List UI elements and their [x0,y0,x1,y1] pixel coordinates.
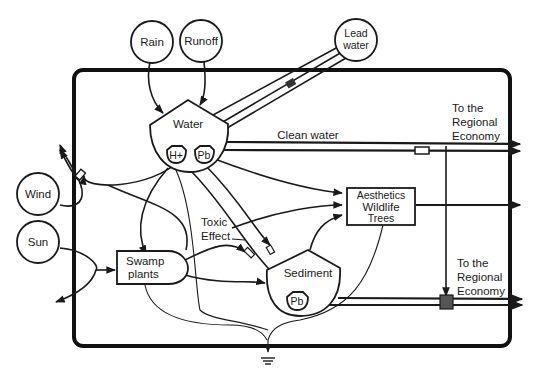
water-to-plants [141,168,168,254]
source-wind: Wind [17,173,59,215]
runoff-label: Runoff [184,35,218,47]
sediment-to-amenities [310,215,342,250]
rain-label: Rain [140,36,164,48]
regional-economy-top-1: To the [452,102,483,114]
lead-water-label-2: water [342,39,369,51]
regional-economy-bottom-3: Economy [457,285,505,297]
regional-economy-top-3: Economy [452,130,500,142]
wind-label: Wind [25,188,51,200]
toxic-effect-label-2: Effect [201,230,231,242]
source-runoff: Runoff [180,20,222,62]
toxic-effect-pointer [232,239,245,240]
amenities-box: Aesthetics Wildlife Trees [347,188,415,225]
sediment-label: Sediment [284,267,333,279]
plants-to-sink [145,285,267,340]
water-label: Water [173,118,203,130]
source-lead-water: Lead water [335,19,377,61]
regional-economy-bottom-1: To the [457,257,488,269]
source-rain: Rain [131,21,173,63]
aesthetics-label: Aesthetics [357,189,405,201]
wind-to-plants [108,185,187,250]
producer-swamp-plants: Swamp plants [117,251,188,284]
pb-water-label: Pb [198,149,211,161]
water-to-amenities [212,158,342,193]
sediment-outflow [306,295,522,309]
source-sun: Sun [17,221,59,263]
toxic-interaction-2 [266,245,274,254]
lead-water-label-1: Lead [344,27,368,39]
sun-flow [56,248,97,302]
h-plus-label: H+ [169,149,183,161]
lead-water-flow [202,47,346,131]
sun-label: Sun [28,236,48,248]
clean-water-valve [415,147,429,154]
swamp-plants-label-1: Swamp [126,255,164,267]
regional-economy-top-2: Regional [452,116,497,128]
regional-economy-bottom-2: Regional [457,271,502,283]
toxic-effect-label-1: Toxic [201,216,227,228]
energy-systems-diagram: Rain Runoff Lead water Wind Sun Water H+… [0,0,542,377]
storage-sediment: Sediment Pb [267,250,340,316]
economy-interaction-marker [440,295,453,309]
heat-sink-icon [261,358,275,364]
pb-sediment-label: Pb [291,295,304,307]
swamp-plants-label-2: plants [128,268,159,280]
trees-label: Trees [368,212,394,224]
water-to-sink [175,168,268,330]
clean-water-label: Clean water [277,129,339,141]
